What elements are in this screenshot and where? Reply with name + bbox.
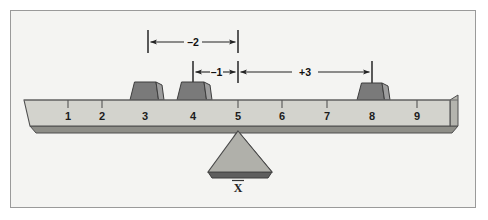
deviation-minus-1: –1	[193, 61, 238, 83]
dim-label-plus-3: +3	[299, 66, 311, 78]
scale-label-1: 1	[65, 110, 71, 122]
fulcrum-face	[208, 131, 272, 172]
scale-label-7: 7	[324, 110, 330, 122]
scale-label-4: 4	[190, 110, 197, 122]
scale-label-3: 3	[142, 110, 148, 122]
scale-label-6: 6	[279, 110, 285, 122]
mean-label-group: X	[232, 181, 244, 196]
dim-label-minus-2: –2	[187, 36, 199, 48]
fulcrum-shadow-base	[208, 172, 272, 178]
scale-label-5: 5	[235, 110, 241, 122]
diagram-canvas: –2 –1 +3	[0, 0, 488, 220]
balance-diagram: –2 –1 +3	[0, 0, 488, 220]
beam-shadow-face	[30, 126, 458, 133]
fulcrum-triangle	[208, 131, 272, 178]
scale-label-9: 9	[414, 110, 420, 122]
deviation-minus-2: –2	[148, 30, 238, 53]
mean-label: X	[234, 181, 243, 195]
scale-label-2: 2	[99, 110, 105, 122]
deviation-plus-3: +3	[241, 61, 373, 83]
dim-label-minus-1: –1	[211, 66, 223, 78]
scale-label-8: 8	[369, 110, 375, 122]
